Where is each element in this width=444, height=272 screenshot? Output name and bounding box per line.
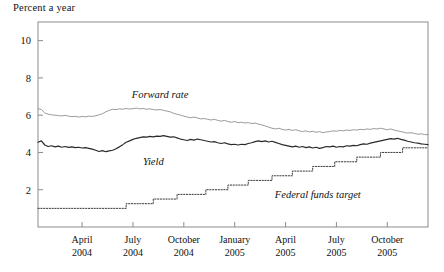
x-tick-label-year: 2005 [276, 247, 296, 258]
x-tick-label-year: 2004 [123, 247, 143, 258]
x-tick-label-year: 2005 [225, 247, 245, 258]
y-tick-label: 4 [26, 147, 32, 158]
plot-frame [38, 22, 428, 227]
annotation-forward-rate: Forward rate [131, 89, 189, 100]
y-tick-label: 8 [26, 73, 31, 84]
x-tick-label-year: 2005 [326, 247, 346, 258]
y-axis-ticks: 246810 [21, 35, 44, 195]
y-tick-label: 10 [21, 35, 32, 46]
series-line-yield [38, 136, 428, 152]
y-tick-label: 2 [26, 185, 31, 196]
x-tick-label-month: January [219, 234, 250, 245]
series-line-federal-funds-target [38, 148, 428, 209]
annotation-yield: Yield [143, 156, 165, 167]
x-tick-label-month: October [168, 234, 201, 245]
series-line-forward-rate [38, 108, 428, 135]
plot-border [38, 22, 428, 227]
data-series [38, 108, 428, 208]
y-tick-label: 6 [26, 110, 31, 121]
x-tick-label-month: July [328, 234, 345, 245]
x-tick-label-month: July [125, 234, 142, 245]
x-tick-label-year: 2004 [72, 247, 92, 258]
chart-root: Percent a year 246810 April2004July2004O… [0, 0, 444, 272]
chart-svg: 246810 April2004July2004October2004Janua… [0, 0, 444, 272]
annotation-federal-funds-target: Federal funds target [274, 189, 362, 200]
x-tick-label-month: October [371, 234, 404, 245]
x-tick-label-month: April [275, 234, 296, 245]
x-tick-label-month: April [72, 234, 93, 245]
x-tick-label-year: 2004 [174, 247, 194, 258]
x-tick-label-year: 2005 [377, 247, 397, 258]
